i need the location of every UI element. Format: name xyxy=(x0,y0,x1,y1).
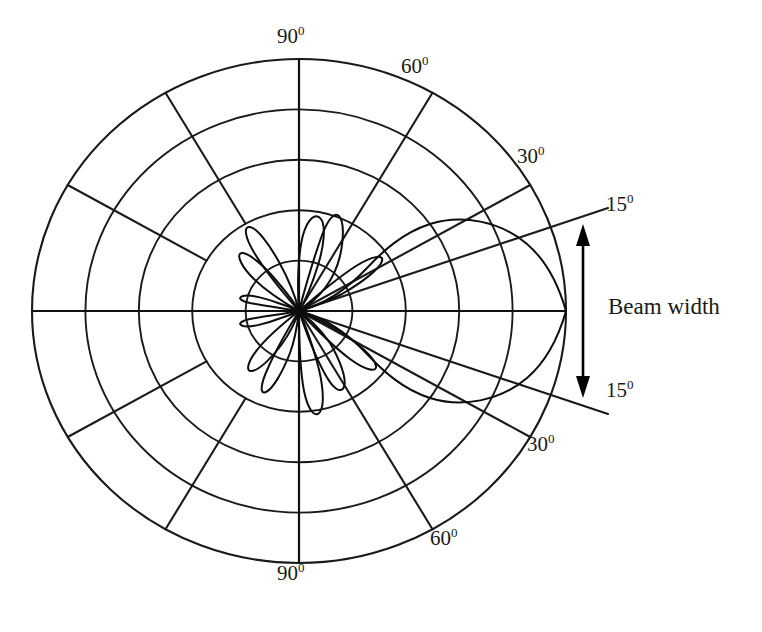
spoke-240 xyxy=(166,398,246,529)
beam-width-arrow-head-top xyxy=(576,224,590,246)
angle-label-top-30: 300 xyxy=(517,146,545,167)
grid-spokes xyxy=(32,59,608,563)
radiation-pattern-trace xyxy=(239,215,566,415)
spoke-150 xyxy=(68,185,207,261)
beam-width-arrow-head-bottom xyxy=(576,376,590,398)
spoke-300 xyxy=(299,311,433,529)
angle-label-bottom-15: 150 xyxy=(606,380,634,401)
beam-width-label: Beam width xyxy=(608,294,720,320)
angle-label-bottom-60: 600 xyxy=(430,528,458,549)
spoke-30 xyxy=(299,185,530,311)
angle-label-bottom-30: 300 xyxy=(527,434,555,455)
angle-label-top-15: 150 xyxy=(606,194,634,215)
spoke-330 xyxy=(299,311,530,437)
angle-label-bottom-90: 900 xyxy=(277,563,305,584)
spoke-120 xyxy=(166,93,246,224)
angle-label-top-90: 900 xyxy=(277,26,305,47)
polar-pattern-figure: 900 600 300 150 150 300 600 900 Beam wid… xyxy=(0,0,762,632)
spoke-210 xyxy=(68,361,207,437)
angle-label-top-60: 600 xyxy=(401,56,429,77)
beam-width-arrow xyxy=(576,224,590,398)
